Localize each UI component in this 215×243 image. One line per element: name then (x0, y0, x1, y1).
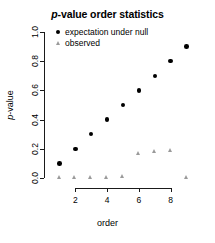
data-point-observed (88, 175, 92, 179)
y-tick-label: 0.8 (30, 50, 40, 72)
data-point-observed (72, 175, 76, 179)
data-point-expectation (89, 132, 94, 137)
x-tick-label: 8 (164, 195, 178, 205)
data-point-expectation (57, 161, 62, 166)
y-tick-label: 0.2 (30, 138, 40, 160)
y-tick-mark (40, 149, 44, 150)
data-point-expectation (137, 88, 142, 93)
data-point-observed (184, 175, 188, 179)
x-axis-line (75, 188, 170, 189)
data-point-expectation (153, 74, 158, 79)
data-point-expectation (121, 103, 126, 108)
y-tick-label: 1.0 (30, 21, 40, 43)
data-point-observed (136, 151, 140, 155)
data-point-expectation (168, 59, 173, 64)
x-tick-mark (107, 188, 108, 192)
y-tick-label: 0.4 (30, 109, 40, 131)
data-point-observed (104, 175, 108, 179)
x-tick-label: 6 (132, 195, 146, 205)
data-point-expectation (184, 44, 189, 49)
x-tick-mark (171, 188, 172, 192)
x-tick-label: 4 (100, 195, 114, 205)
y-tick-label: 0.6 (30, 79, 40, 101)
y-tick-mark (40, 178, 44, 179)
x-tick-mark (75, 188, 76, 192)
data-point-expectation (105, 117, 110, 122)
data-point-expectation (73, 147, 78, 152)
data-point-observed (168, 148, 172, 152)
data-point-observed (57, 175, 61, 179)
y-tick-label: 0.0 (30, 167, 40, 189)
data-point-observed (120, 174, 124, 178)
data-point-observed (152, 149, 156, 153)
plot-area: 0.00.20.40.60.81.02468 (0, 0, 215, 243)
y-tick-mark (40, 32, 44, 33)
y-tick-mark (40, 90, 44, 91)
x-tick-mark (139, 188, 140, 192)
chart-container: p-value order statistics p-value order e… (0, 0, 215, 243)
y-axis-line (44, 32, 45, 178)
x-tick-label: 2 (68, 195, 82, 205)
y-tick-mark (40, 120, 44, 121)
y-tick-mark (40, 61, 44, 62)
